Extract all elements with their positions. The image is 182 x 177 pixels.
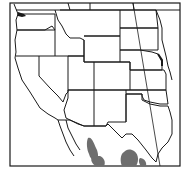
map-svg [0,0,182,177]
map-frame [10,3,180,166]
range-map [0,0,182,177]
